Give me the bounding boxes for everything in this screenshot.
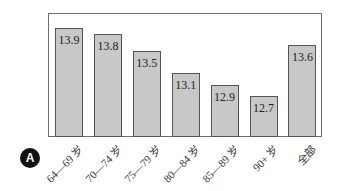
bar-value-label: 13.5 — [134, 56, 160, 71]
x-tick-label: 90+ 岁 — [248, 141, 281, 174]
bar-value-label: 13.9 — [56, 33, 82, 48]
x-tick-label: 64—69 岁 — [42, 141, 86, 185]
panel-label-badge: A — [20, 148, 40, 168]
bar-value-label: 13.8 — [95, 39, 121, 54]
x-tick-label: 75—79 岁 — [120, 141, 164, 185]
bar: 13.6 — [288, 45, 316, 137]
x-tick-label: 85—89 岁 — [198, 141, 242, 185]
x-tick-label: 80—84 岁 — [159, 141, 203, 185]
bar: 13.8 — [94, 34, 122, 137]
bar: 13.1 — [172, 73, 200, 137]
bar-value-label: 12.7 — [251, 101, 277, 116]
bar-value-label: 13.6 — [289, 50, 315, 65]
bar-chart: 13.913.813.513.112.912.713.6 64—69 岁70—7… — [0, 0, 339, 191]
bar-value-label: 12.9 — [212, 90, 238, 105]
bar: 13.5 — [133, 51, 161, 137]
bar: 12.7 — [250, 96, 278, 137]
bar: 12.9 — [211, 85, 239, 137]
bar-value-label: 13.1 — [173, 78, 199, 93]
x-tick-label: 全部 — [293, 141, 320, 168]
x-tick-label: 70—74 岁 — [81, 141, 125, 185]
bar: 13.9 — [55, 28, 83, 137]
